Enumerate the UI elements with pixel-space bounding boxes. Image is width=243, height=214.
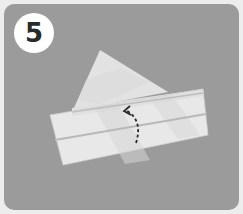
instruction-panel: 5 — [4, 4, 239, 210]
step-number: 5 — [25, 18, 43, 48]
step-number-badge: 5 — [14, 13, 54, 53]
